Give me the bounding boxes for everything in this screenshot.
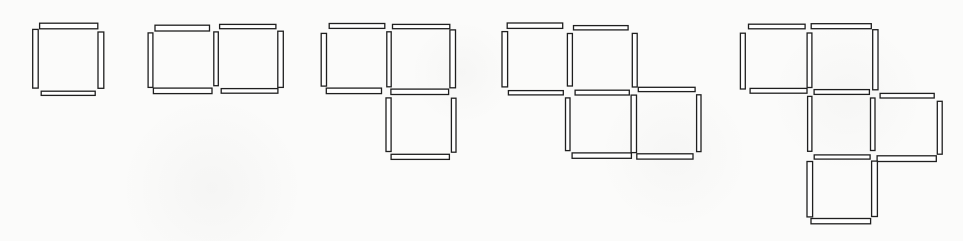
stick-vertical — [807, 33, 812, 88]
pattern-figure-3 — [321, 24, 456, 160]
stick-vertical — [871, 98, 876, 151]
stick-horizontal — [574, 26, 629, 30]
stick-horizontal — [221, 89, 278, 94]
stick-horizontal — [153, 88, 212, 94]
stick-horizontal — [637, 154, 693, 159]
stick-vertical — [33, 29, 39, 88]
pattern-figure-5 — [740, 24, 942, 224]
stick-horizontal — [507, 23, 563, 28]
pattern-figure-1 — [33, 23, 104, 95]
stick-horizontal — [638, 87, 695, 91]
stick-vertical — [450, 30, 456, 88]
stick-horizontal — [749, 24, 806, 29]
stick-vertical — [872, 161, 878, 216]
stick-horizontal — [40, 23, 98, 29]
stick-vertical — [632, 33, 637, 87]
stick-horizontal — [155, 25, 210, 31]
stick-horizontal — [814, 155, 870, 159]
pattern-canvas — [0, 0, 963, 241]
stick-horizontal — [220, 24, 276, 28]
scanned-page — [0, 0, 963, 241]
pattern-figure-2 — [148, 24, 283, 93]
stick-horizontal — [326, 88, 381, 94]
pattern-figure-4 — [502, 23, 701, 159]
stick-horizontal — [391, 154, 449, 159]
stick-horizontal — [391, 89, 449, 94]
stick-horizontal — [572, 153, 631, 158]
stick-horizontal — [811, 24, 871, 29]
stick-horizontal — [329, 24, 385, 29]
stick-vertical — [321, 33, 326, 86]
stick-horizontal — [811, 219, 871, 224]
stick-horizontal — [877, 156, 936, 162]
stick-horizontal — [814, 90, 869, 95]
stick-vertical — [98, 32, 104, 88]
stick-vertical — [808, 96, 812, 151]
stick-horizontal — [393, 24, 450, 28]
stick-vertical — [502, 32, 508, 87]
stick-vertical — [631, 95, 636, 153]
stick-vertical — [873, 30, 878, 90]
stick-vertical — [386, 98, 391, 152]
stick-vertical — [278, 31, 284, 87]
stick-horizontal — [880, 93, 934, 98]
stick-horizontal — [750, 88, 807, 93]
stick-vertical — [807, 162, 813, 217]
stick-horizontal — [508, 91, 563, 95]
stick-vertical — [148, 33, 153, 88]
stick-vertical — [697, 95, 701, 152]
stick-horizontal — [41, 91, 95, 95]
stick-vertical — [937, 101, 942, 154]
stick-vertical — [567, 34, 572, 87]
stick-vertical — [740, 33, 745, 89]
stick-vertical — [451, 98, 456, 152]
stick-horizontal — [575, 90, 629, 95]
stick-vertical — [387, 32, 391, 87]
stick-vertical — [214, 32, 219, 86]
stick-vertical — [566, 98, 571, 151]
